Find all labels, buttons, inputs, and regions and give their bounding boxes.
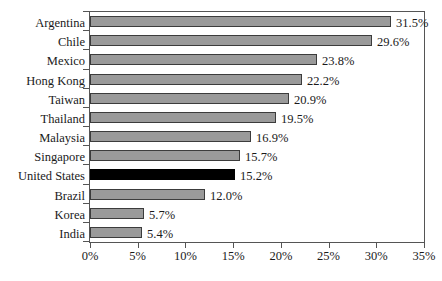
- bar: [90, 74, 302, 85]
- bar: [90, 189, 205, 200]
- category-label: Thailand: [0, 113, 85, 126]
- category-label: Malaysia: [0, 132, 85, 145]
- bar-value-label: 12.0%: [210, 190, 242, 203]
- category-tick: [83, 184, 90, 185]
- category-tick: [83, 11, 90, 12]
- value-tick: [90, 243, 91, 248]
- value-tick-label: 30%: [365, 250, 388, 263]
- category-label: United States: [0, 170, 85, 183]
- bar: [90, 169, 235, 180]
- value-tick-label: 5%: [129, 250, 146, 263]
- value-tick-label: 0%: [82, 250, 99, 263]
- bar-value-label: 15.2%: [240, 170, 272, 183]
- value-tick-label: 35%: [413, 250, 436, 263]
- value-tick: [376, 243, 377, 248]
- category-label: Korea: [0, 209, 85, 222]
- category-tick: [83, 145, 90, 146]
- bars-container: 31.5%29.6%23.8%22.2%20.9%19.5%16.9%15.7%…: [90, 12, 424, 242]
- value-tick: [233, 243, 234, 248]
- category-label: Brazil: [0, 190, 85, 203]
- bar-value-label: 23.8%: [322, 55, 354, 68]
- category-label: Mexico: [0, 55, 85, 68]
- bar: [90, 54, 317, 65]
- value-tick-label: 20%: [269, 250, 292, 263]
- bar-value-label: 5.7%: [149, 209, 175, 222]
- category-tick: [83, 30, 90, 31]
- value-tick: [329, 243, 330, 248]
- bar: [90, 35, 372, 46]
- value-tick: [138, 243, 139, 248]
- value-tick-label: 10%: [174, 250, 197, 263]
- bar: [90, 112, 276, 123]
- value-axis: 0%5%10%15%20%25%30%35%: [89, 243, 425, 281]
- bar-value-label: 5.4%: [147, 228, 173, 241]
- value-tick-label: 15%: [222, 250, 245, 263]
- bar: [90, 208, 144, 219]
- bar-chart: ArgentinaChileMexicoHong KongTaiwanThail…: [0, 0, 442, 281]
- category-label: Chile: [0, 36, 85, 49]
- category-tick: [83, 203, 90, 204]
- bar-value-label: 19.5%: [281, 113, 313, 126]
- bar-value-label: 15.7%: [245, 151, 277, 164]
- bar-value-label: 31.5%: [396, 17, 428, 30]
- value-tick: [185, 243, 186, 248]
- bar-value-label: 29.6%: [377, 36, 409, 49]
- category-tick: [83, 107, 90, 108]
- category-tick: [83, 88, 90, 89]
- category-label: Hong Kong: [0, 75, 85, 88]
- value-tick-label: 25%: [317, 250, 340, 263]
- category-axis: ArgentinaChileMexicoHong KongTaiwanThail…: [0, 11, 85, 243]
- bar-value-label: 16.9%: [256, 132, 288, 145]
- category-tick: [83, 241, 90, 242]
- category-tick: [83, 126, 90, 127]
- bar-value-label: 22.2%: [307, 75, 339, 88]
- bar: [90, 131, 251, 142]
- bar: [90, 150, 240, 161]
- bar-value-label: 20.9%: [294, 94, 326, 107]
- category-label: Singapore: [0, 151, 85, 164]
- category-label: India: [0, 228, 85, 241]
- category-tick: [83, 49, 90, 50]
- value-tick: [424, 243, 425, 248]
- category-tick: [83, 164, 90, 165]
- bar: [90, 93, 289, 104]
- value-tick: [281, 243, 282, 248]
- category-label: Argentina: [0, 17, 85, 30]
- category-label: Taiwan: [0, 94, 85, 107]
- category-tick: [83, 69, 90, 70]
- bar: [90, 227, 142, 238]
- category-tick: [83, 222, 90, 223]
- bar: [90, 16, 391, 27]
